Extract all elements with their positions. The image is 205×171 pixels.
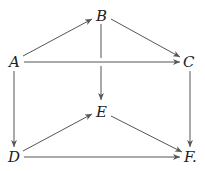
node-d: D <box>7 148 20 166</box>
edge-e-f <box>111 116 182 152</box>
node-c: C <box>183 53 195 71</box>
node-a: A <box>7 53 20 71</box>
commutative-diagram: A B C D E F. <box>0 0 205 171</box>
edge-d-e <box>23 114 92 151</box>
edge-a-b <box>23 19 92 56</box>
node-f: F. <box>183 148 197 166</box>
node-e: E <box>95 103 107 121</box>
node-b: B <box>95 7 107 25</box>
edge-b-c <box>111 19 180 57</box>
